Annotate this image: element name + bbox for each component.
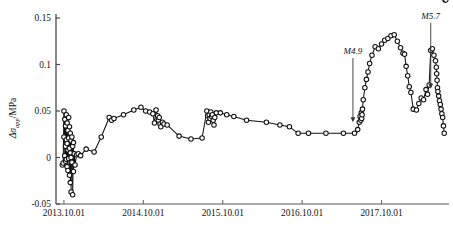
data-point-marker [70,192,75,197]
x-tick-label: 2017.10.01 [360,208,403,218]
x-tick-label: 2013.10.01 [43,208,86,218]
data-point-marker [370,53,375,58]
figure-container: -0.0500.050.10.15 2013.10.012014.10.0120… [0,0,453,239]
data-point-marker [200,136,205,141]
data-point-marker [360,112,365,117]
data-point-marker [395,39,400,44]
data-point-marker [224,112,229,117]
y-tick-label: 0 [46,153,51,163]
data-point-marker [439,107,444,112]
data-point-marker [432,53,437,58]
data-point-marker [421,98,426,103]
data-point-marker [99,135,104,140]
data-point-marker [306,131,311,136]
data-point-marker [139,105,144,110]
data-point-marker [218,111,223,116]
y-axis-label-subscript: app [13,118,20,128]
data-point-marker [112,116,117,121]
data-point-marker [435,78,440,83]
data-point-marker [442,131,447,136]
data-point-marker [73,163,78,168]
y-axis-label-group: Δσapp/MPa [8,97,20,139]
data-point-marker [84,147,89,152]
data-point-marker [324,131,329,136]
data-point-marker [71,140,76,145]
data-point-marker [364,77,369,82]
y-axis-label-units: /MPa [8,97,18,118]
data-point-marker [367,61,372,66]
data-point-marker [425,92,430,97]
data-point-marker [414,108,419,113]
data-point-marker [70,135,75,140]
data-point-marker [441,124,446,129]
data-point-marker [66,168,71,173]
data-point-marker [392,32,397,37]
data-point-marker [165,123,170,128]
x-tick-label: 2015.10.01 [202,208,245,218]
data-point-marker [376,46,381,51]
data-point-marker [366,70,371,75]
y-tick-label: 0.1 [39,60,51,70]
data-point-marker [189,137,194,142]
data-point-marker [264,120,269,125]
data-point-marker [433,59,438,64]
data-point-marker [438,102,443,107]
data-point-marker [92,150,97,155]
data-point-marker [157,115,162,120]
data-point-marker [296,131,301,136]
data-point-marker [212,123,217,128]
x-tick-label: 2014.10.01 [122,208,165,218]
y-tick-label: 0.05 [35,106,52,116]
data-point-marker [132,108,137,113]
data-point-marker [404,64,409,69]
data-point-marker [434,72,439,77]
data-point-marker [398,46,403,51]
data-point-marker [244,118,249,123]
data-point-marker [154,108,159,113]
data-point-marker [67,125,72,130]
data-point-marker [78,153,83,158]
data-point-marker [287,125,292,130]
data-point-marker [434,65,439,70]
y-axis-label-text: Δσapp/MPa [8,97,20,139]
data-point-marker [68,180,73,185]
apparent-stress-chart: -0.0500.050.10.15 2013.10.012014.10.0120… [0,0,453,239]
annotation-label: M4.9 [343,46,363,56]
data-point-marker [121,112,126,117]
data-point-marker [213,115,218,120]
data-point-marker [278,123,283,128]
data-point-marker [405,73,410,78]
data-point-marker [402,52,407,57]
data-point-marker [341,131,346,136]
data-point-marker [177,134,182,139]
data-point-marker [355,127,360,132]
x-tick-label: 2016.10.01 [281,208,324,218]
data-point-marker [417,101,422,106]
annotation-label: M5.7 [420,11,440,21]
data-point-marker [360,107,365,112]
data-point-marker [444,0,449,2]
data-point-marker [436,89,441,94]
data-point-marker [409,90,414,95]
data-point-marker [66,115,71,120]
data-point-marker [407,85,412,90]
y-tick-label: 0.15 [35,13,52,23]
y-axis-label: Δσapp/MPa [8,97,20,139]
data-point-marker [361,98,366,103]
data-point-marker [71,169,76,174]
data-point-marker [424,87,429,92]
data-point-marker [440,115,445,120]
data-point-marker [232,114,237,119]
y-axis-label-symbol: Δσ [8,128,18,140]
data-point-marker [363,86,368,91]
data-point-marker [436,94,441,99]
data-point-marker [67,173,72,178]
